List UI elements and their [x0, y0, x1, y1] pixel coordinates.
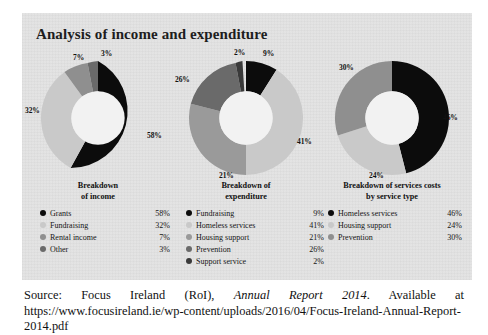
legend-income: Grants 58% Fundraising 32% Rental income… — [24, 207, 188, 255]
legend-value: 3% — [159, 245, 170, 254]
legend-label: Housing support — [196, 233, 249, 242]
donut-chart-expenditure: 9% 41% 21% 26% 2% — [187, 59, 305, 177]
pct-label-prevention: 26% — [175, 75, 190, 84]
donut-svg-income — [39, 59, 157, 177]
pct-label-housing-support: 21% — [219, 171, 234, 180]
pct-label-rental-income: 7% — [73, 53, 84, 62]
legend-item: Housing support 24% — [328, 219, 476, 231]
chart-title-expenditure: Breakdown of expenditure — [172, 181, 320, 202]
legend-item: Support service 2% — [186, 255, 334, 267]
legend-swatch-icon — [40, 222, 46, 228]
legend-label: Housing support — [338, 221, 391, 230]
source-report-title: Annual Report 2014 — [234, 288, 367, 302]
legend-label: Fundraising — [50, 221, 88, 230]
legend-value: 30% — [447, 233, 462, 242]
legend-label: Rental income — [50, 233, 96, 242]
chart-income: 58% 32% 7% 3% Breakdown of income Grants… — [24, 51, 172, 273]
pct-label-support-service: 2% — [234, 48, 245, 57]
legend-label: Prevention — [338, 233, 373, 242]
donut-hole-expenditure — [219, 91, 272, 144]
legend-value: 24% — [447, 221, 462, 230]
figure-panel: Analysis of income and expenditure 58% 3… — [22, 13, 472, 280]
legend-swatch-icon — [40, 234, 46, 240]
donut-hole-income — [71, 91, 124, 144]
chart-title-services-line1: Breakdown of services costs — [318, 181, 466, 192]
legend-swatch-icon — [186, 234, 192, 240]
legend-swatch-icon — [328, 234, 334, 240]
legend-swatch-icon — [186, 246, 192, 252]
pct-label-homeless-services: 41% — [297, 137, 312, 146]
legend-swatch-icon — [186, 210, 192, 216]
chart-title-income: Breakdown of income — [24, 181, 172, 202]
legend-value: 58% — [155, 209, 170, 218]
chart-title-income-line1: Breakdown — [24, 181, 172, 192]
figure-title: Analysis of income and expenditure — [36, 26, 267, 43]
legend-label: Prevention — [196, 245, 231, 254]
legend-label: Other — [50, 245, 68, 254]
legend-item: Homeless services 41% — [186, 219, 334, 231]
legend-value: 32% — [155, 221, 170, 230]
donut-svg-services — [333, 59, 451, 177]
pct-label-housing-support: 24% — [369, 171, 384, 180]
donut-chart-income: 58% 32% 7% 3% — [39, 59, 157, 177]
legend-item: Homeless services 46% — [328, 207, 476, 219]
legend-swatch-icon — [40, 210, 46, 216]
chart-title-services-line2: by service type — [318, 192, 466, 203]
chart-title-expenditure-line1: Breakdown of — [172, 181, 320, 192]
pct-label-fundraising: 32% — [25, 106, 40, 115]
chart-title-expenditure-line2: expenditure — [172, 192, 320, 203]
source-citation: Source: Focus Ireland (RoI), Annual Repo… — [24, 288, 464, 335]
legend-value: 7% — [159, 233, 170, 242]
legend-item: Prevention 30% — [328, 231, 476, 243]
legend-swatch-icon — [40, 246, 46, 252]
pct-label-homeless-services: 46% — [443, 113, 458, 122]
pct-label-other: 3% — [101, 49, 112, 58]
chart-expenditure: 9% 41% 21% 26% 2% Breakdown of expenditu… — [172, 51, 320, 273]
legend-services: Homeless services 46% Housing support 24… — [318, 207, 476, 243]
chart-services-costs: 46% 24% 30% Breakdown of services costs … — [318, 51, 466, 273]
legend-swatch-icon — [186, 258, 192, 264]
chart-title-income-line2: of income — [24, 192, 172, 203]
pct-label-prevention: 30% — [339, 63, 354, 72]
legend-item: Rental income 7% — [40, 231, 188, 243]
donut-svg-expenditure — [187, 59, 305, 177]
legend-expenditure: Fundraising 9% Homeless services 41% Hou… — [172, 207, 334, 267]
pct-label-grants: 58% — [147, 131, 162, 140]
legend-label: Fundraising — [196, 209, 234, 218]
legend-item: Other 3% — [40, 243, 188, 255]
legend-item: Grants 58% — [40, 207, 188, 219]
legend-item: Fundraising 32% — [40, 219, 188, 231]
source-prefix: Source: Focus Ireland (RoI), — [24, 288, 234, 302]
legend-item: Prevention 26% — [186, 243, 334, 255]
legend-swatch-icon — [186, 222, 192, 228]
legend-label: Homeless services — [196, 221, 255, 230]
legend-item: Housing support 21% — [186, 231, 334, 243]
legend-swatch-icon — [328, 210, 334, 216]
legend-label: Homeless services — [338, 209, 397, 218]
chart-title-services: Breakdown of services costs by service t… — [318, 181, 466, 202]
legend-label: Grants — [50, 209, 71, 218]
legend-value: 46% — [447, 209, 462, 218]
donut-chart-services: 46% 24% 30% — [333, 59, 451, 177]
legend-item: Fundraising 9% — [186, 207, 334, 219]
pct-label-fundraising: 9% — [263, 49, 274, 58]
legend-swatch-icon — [328, 222, 334, 228]
donut-hole-services — [365, 91, 418, 144]
legend-label: Support service — [196, 257, 246, 266]
